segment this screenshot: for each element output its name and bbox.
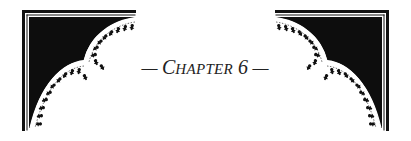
heading-dash-right: — bbox=[248, 58, 269, 78]
chapter-heading: — CHAPTER 6 — bbox=[135, 52, 275, 82]
corner-ornament-left-icon bbox=[18, 0, 138, 141]
heading-dash-left: — bbox=[141, 58, 162, 78]
chapter-number: 6 bbox=[233, 56, 248, 78]
corner-ornament-right-icon bbox=[273, 0, 393, 141]
heading-word: HAPTER bbox=[175, 61, 233, 77]
heading-initial: C bbox=[162, 56, 175, 78]
